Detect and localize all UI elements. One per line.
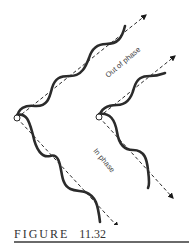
- scattered-axis-right: [99, 56, 175, 117]
- incident-ray-left: [17, 115, 118, 225]
- incident-wave-right: [99, 114, 149, 188]
- incident-wave-left: [17, 115, 100, 222]
- incident-axis-right: [99, 117, 173, 198]
- figure-caption: FIGURE11.32: [14, 227, 106, 242]
- scattering-atom-right: [96, 114, 102, 120]
- figure-number: 11.32: [79, 227, 106, 241]
- scattered-ray-right: [99, 56, 175, 117]
- in-phase-label: In phase: [91, 147, 116, 175]
- caption-rule: [14, 241, 189, 243]
- incident-ray-right: [99, 114, 173, 198]
- figure-label: FIGURE: [14, 227, 69, 241]
- phase-diagram: Out of phase In phase: [0, 0, 189, 225]
- out-of-phase-label: Out of phase: [104, 45, 143, 80]
- scattering-atom-left: [14, 115, 20, 121]
